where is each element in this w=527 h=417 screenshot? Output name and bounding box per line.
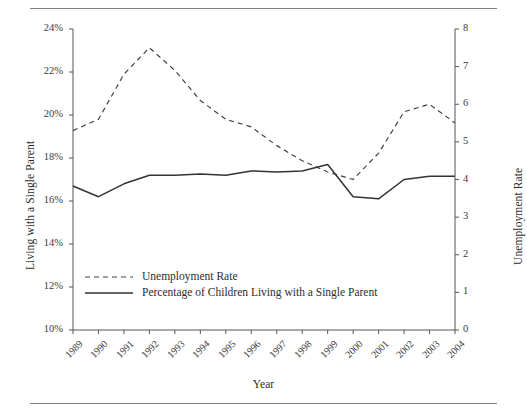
left-tick-label: 22% — [23, 65, 63, 76]
series-line-solid — [73, 164, 455, 198]
right-axis-title: Unemployment Rate — [512, 168, 524, 265]
x-axis-ticks — [73, 330, 455, 334]
x-axis-title: Year — [0, 378, 527, 390]
data-series-layer — [73, 48, 455, 199]
left-axis-title: Living with a Single Parent — [24, 141, 36, 270]
left-tick-label: 10% — [23, 323, 63, 334]
legend-label-single-parent: Percentage of Children Living with a Sin… — [142, 286, 377, 298]
right-tick-label: 1 — [463, 285, 503, 296]
right-tick-label: 6 — [463, 97, 503, 108]
right-tick-label: 0 — [463, 323, 503, 334]
right-tick-label: 7 — [463, 60, 503, 71]
chart-figure: 10%12%14%16%18%20%22%24% 012345678 19891… — [0, 0, 527, 417]
right-tick-label: 8 — [463, 22, 503, 33]
series-line-dashed — [73, 48, 455, 180]
left-tick-label: 12% — [23, 280, 63, 291]
right-tick-label: 5 — [463, 135, 503, 146]
right-tick-label: 4 — [463, 173, 503, 184]
right-axis-ticks — [455, 29, 459, 330]
right-tick-label: 2 — [463, 248, 503, 259]
left-tick-label: 20% — [23, 108, 63, 119]
legend-swatches — [85, 277, 133, 293]
left-axis-ticks — [69, 29, 73, 330]
axis-lines — [73, 29, 455, 330]
legend-label-unemployment-rate: Unemployment Rate — [142, 270, 238, 282]
right-tick-label: 3 — [463, 210, 503, 221]
left-tick-label: 24% — [23, 22, 63, 33]
